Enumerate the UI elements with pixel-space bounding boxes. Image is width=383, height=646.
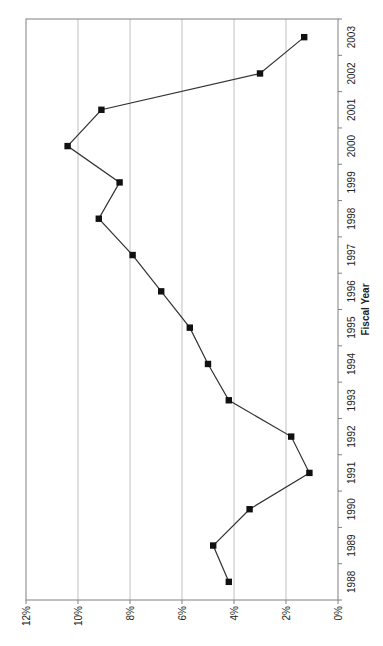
value-tick-label: 10%: [73, 606, 84, 626]
data-point-marker: [226, 397, 232, 403]
category-tick-label: 1995: [346, 316, 357, 339]
category-tick-label: 1999: [346, 171, 357, 194]
category-tick-label: 1992: [346, 425, 357, 448]
category-tick-label: 1990: [346, 498, 357, 521]
value-tick-label: 0%: [333, 606, 344, 621]
category-tick-label: 1991: [346, 461, 357, 484]
category-tick-label: 2000: [346, 135, 357, 158]
data-point-marker: [226, 579, 232, 585]
category-tick-label: 1996: [346, 280, 357, 303]
category-tick-label: 2001: [346, 98, 357, 121]
data-point-marker: [288, 433, 294, 439]
data-point-marker: [158, 288, 164, 294]
data-point-marker: [301, 34, 307, 40]
category-tick-label: 1998: [346, 207, 357, 230]
chart-background: [0, 0, 383, 646]
data-point-marker: [257, 70, 263, 76]
data-point-marker: [246, 506, 252, 512]
data-point-marker: [187, 324, 193, 330]
category-tick-label: 1988: [346, 570, 357, 593]
category-tick-label: 2002: [346, 62, 357, 85]
x-axis-title: Fiscal Year: [360, 283, 371, 335]
data-point-marker: [129, 252, 135, 258]
value-tick-label: 8%: [125, 606, 136, 621]
data-point-marker: [98, 107, 104, 113]
data-point-marker: [116, 179, 122, 185]
data-point-marker: [205, 361, 211, 367]
value-tick-label: 6%: [177, 606, 188, 621]
data-point-marker: [210, 542, 216, 548]
value-tick-label: 2%: [281, 606, 292, 621]
category-tick-label: 1994: [346, 352, 357, 375]
category-tick-label: 1989: [346, 534, 357, 557]
data-point-marker: [64, 143, 70, 149]
value-tick-label: 12%: [21, 606, 32, 626]
category-tick-label: 1993: [346, 389, 357, 412]
data-point-marker: [306, 470, 312, 476]
category-tick-label: 2003: [346, 26, 357, 49]
line-chart: 0%2%4%6%8%10%12% 19881989199019911992199…: [0, 0, 383, 646]
data-point-marker: [96, 216, 102, 222]
value-tick-label: 4%: [229, 606, 240, 621]
category-tick-label: 1997: [346, 243, 357, 266]
